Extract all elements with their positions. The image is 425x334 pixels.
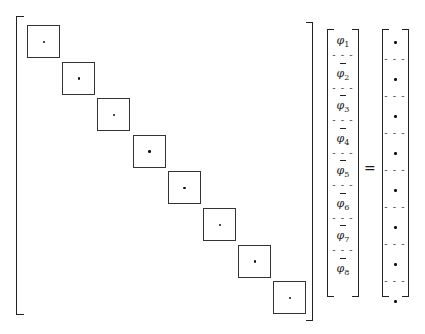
block-entry-dot — [219, 224, 222, 227]
overbar — [340, 258, 346, 259]
block-entry-dot — [78, 77, 81, 80]
block-entry-dot — [113, 114, 116, 117]
block-separator: - - - — [329, 49, 357, 60]
diagonal-block — [133, 135, 166, 168]
result-left-bracket — [382, 29, 389, 297]
block-separator: - - - — [329, 179, 357, 190]
diagonal-block — [168, 171, 201, 204]
overbar — [340, 95, 346, 96]
block-separator: - - - — [381, 53, 409, 64]
overbar — [340, 225, 346, 226]
block-entry-dot — [289, 297, 292, 300]
overbar — [340, 160, 346, 161]
block-separator: - - - — [381, 275, 409, 286]
diagonal-block — [97, 98, 130, 131]
result-entry-dot — [394, 152, 397, 155]
block-separator: - - - — [381, 238, 409, 249]
block-separator: - - - — [329, 244, 357, 255]
block-separator: - - - — [329, 147, 357, 158]
phi-entry: φ4 — [329, 132, 357, 147]
block-entry-dot — [183, 187, 186, 190]
diagonal-block — [238, 245, 271, 278]
block-separator: - - - — [381, 164, 409, 175]
result-entry-dot — [394, 115, 397, 118]
block-separator: - - - — [329, 82, 357, 93]
phi-entry: φ6 — [329, 197, 357, 212]
block-separator: - - - — [381, 201, 409, 212]
block-separator: - - - — [329, 212, 357, 223]
phi-entry: φ5 — [329, 164, 357, 179]
diagonal-block — [203, 208, 236, 241]
result-right-bracket — [402, 29, 409, 297]
block-entry-dot — [254, 260, 257, 263]
overbar — [340, 128, 346, 129]
block-entry-dot — [43, 41, 46, 44]
phi-entry: φ3 — [329, 99, 357, 114]
result-entry-dot — [394, 189, 397, 192]
matrix-left-bracket — [16, 16, 24, 315]
diagonal-block — [273, 281, 306, 314]
phi-entry: φ7 — [329, 229, 357, 244]
result-entry-dot — [394, 300, 397, 303]
overbar — [340, 193, 346, 194]
phi-entry: φ2 — [329, 67, 357, 82]
diagonal-block — [27, 25, 60, 58]
result-entry-dot — [394, 263, 397, 266]
phi-entry: φ1 — [329, 34, 357, 49]
matrix-right-bracket — [306, 22, 313, 321]
result-entry-dot — [394, 78, 397, 81]
block-separator: - - - — [381, 127, 409, 138]
equals-sign: = — [364, 160, 376, 176]
block-entry-dot — [148, 150, 151, 153]
result-entry-dot — [394, 226, 397, 229]
overbar — [340, 63, 346, 64]
block-separator: - - - — [329, 114, 357, 125]
diagonal-block — [62, 62, 95, 95]
phi-entry: φ8 — [329, 262, 357, 277]
result-entry-dot — [394, 41, 397, 44]
block-separator: - - - — [381, 90, 409, 101]
